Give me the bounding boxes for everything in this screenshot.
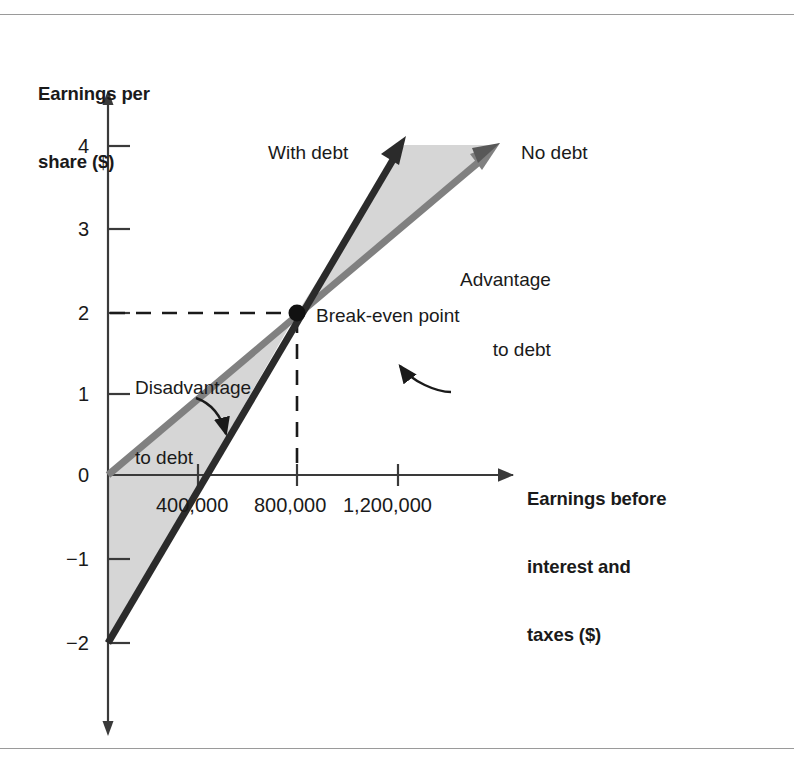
x-tick-label-1200000: 1,200,000 <box>343 493 432 517</box>
disadvantage-to-debt-line1: Disadvantage <box>135 376 251 399</box>
disadvantage-to-debt-line2: to debt <box>135 446 251 469</box>
x-axis-title-line1: Earnings before <box>527 488 666 511</box>
x-axis-title-line2: interest and <box>527 556 666 579</box>
break-even-label: Break-even point <box>316 304 460 327</box>
y-axis-title-line1: Earnings per <box>38 83 150 106</box>
y-tick-label-3: 3 <box>78 217 89 241</box>
y-tick-label-1: 1 <box>78 382 89 406</box>
break-even-marker <box>289 305 306 322</box>
y-tick-label-0: 0 <box>78 463 89 487</box>
x-axis-title-line3: taxes ($) <box>527 624 666 647</box>
y-tick-label-neg1: −1 <box>66 547 89 571</box>
advantage-to-debt-label: Advantage to debt <box>460 222 551 407</box>
series-label-with-debt: With debt <box>268 141 348 164</box>
y-axis-title: Earnings per share ($) <box>38 38 150 219</box>
figure-container: Earnings per share ($) Earnings before i… <box>0 0 794 781</box>
series-label-no-debt: No debt <box>521 141 588 164</box>
x-axis-title: Earnings before interest and taxes ($) <box>527 443 666 691</box>
y-axis-title-line2: share ($) <box>38 151 150 174</box>
advantage-to-debt-line2: to debt <box>460 338 551 361</box>
y-tick-label-2: 2 <box>78 301 89 325</box>
y-tick-label-4: 4 <box>78 134 89 158</box>
x-tick-label-800000: 800,000 <box>254 493 326 517</box>
advantage-pointer-arrow <box>400 366 451 392</box>
advantage-to-debt-line1: Advantage <box>460 268 551 291</box>
y-axis-arrow-down <box>103 721 114 736</box>
y-tick-label-neg2: −2 <box>66 631 89 655</box>
disadvantage-to-debt-label: Disadvantage to debt <box>135 330 251 515</box>
